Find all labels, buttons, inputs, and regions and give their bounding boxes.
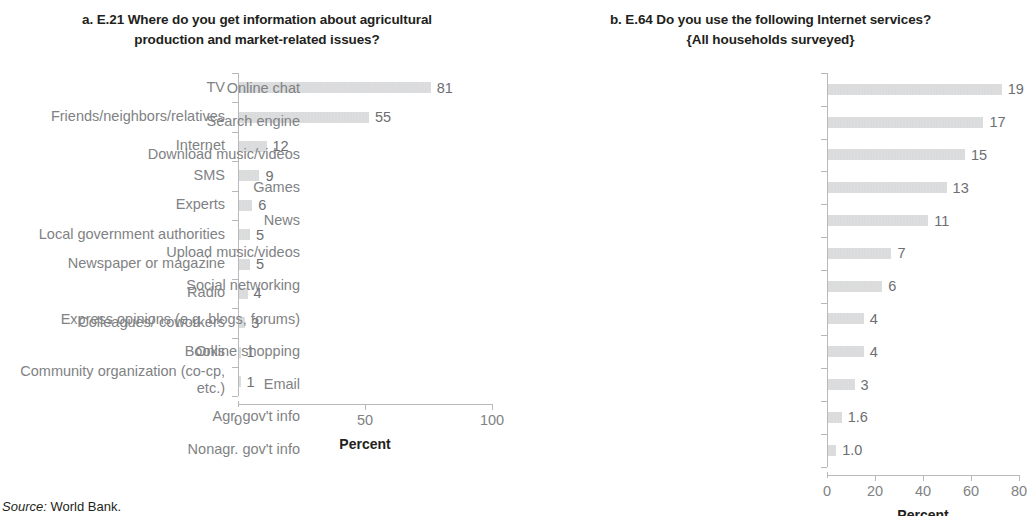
category-label: Social networking	[0, 278, 308, 294]
bar-value-label: 6	[882, 278, 896, 294]
chart-a-title-line1: a. E.21 Where do you get information abo…	[82, 12, 432, 27]
y-axis-tick	[821, 171, 827, 172]
source-label: Source:	[2, 499, 47, 514]
category-label: News	[0, 213, 308, 229]
y-axis-tick	[821, 237, 827, 238]
category-label: Online chat	[0, 82, 308, 98]
chart-bar-row: Online shopping4	[0, 335, 513, 368]
category-label: Online shopping	[0, 344, 308, 360]
x-axis-tick-label: 60	[963, 483, 979, 499]
chart-panel-b: b. E.64 Do you use the following Interne…	[514, 0, 1027, 516]
category-label: Nonagr. gov't info	[0, 442, 308, 458]
chart-bar-row: Games13	[0, 171, 513, 204]
category-label: Games	[0, 180, 308, 196]
bar-value-label: 13	[947, 180, 969, 196]
bar	[827, 248, 891, 259]
chart-bar-row: Online chat19	[0, 73, 513, 106]
x-axis-tick-label: 80	[1011, 483, 1027, 499]
bar-value-label: 4	[864, 311, 878, 327]
bar	[827, 117, 983, 128]
category-label: Email	[0, 377, 308, 393]
x-axis-title: Percent	[897, 507, 948, 516]
chart-bar-row: Upload music/videos7	[0, 237, 513, 270]
bar-value-label: 1.6	[842, 409, 868, 425]
chart-bar-row: Download music/videos15	[0, 139, 513, 172]
y-axis-tick	[821, 434, 827, 435]
bar-value-label: 19	[1002, 81, 1024, 97]
x-axis-tick	[1019, 475, 1020, 481]
bar	[827, 84, 1002, 95]
x-axis-tick	[971, 475, 972, 481]
category-label: Search engine	[0, 114, 308, 130]
category-label: Agr. gov't info	[0, 410, 308, 426]
chart-bar-row: Social networking6	[0, 270, 513, 303]
y-axis-tick	[821, 335, 827, 336]
figure-container: a. E.21 Where do you get information abo…	[0, 0, 1027, 516]
chart-bar-row: News11	[0, 204, 513, 237]
y-axis-tick	[821, 106, 827, 107]
x-axis-tick-label: 0	[823, 483, 831, 499]
category-label: Download music/videos	[0, 147, 308, 163]
bar	[827, 281, 882, 292]
x-axis-tick	[923, 475, 924, 481]
x-axis-tick	[875, 475, 876, 481]
y-axis-tick	[821, 303, 827, 304]
bar	[827, 182, 947, 193]
chart-a-title: a. E.21 Where do you get information abo…	[0, 10, 514, 49]
y-axis-line	[827, 73, 828, 467]
source-text: World Bank.	[50, 499, 121, 514]
chart-b-title: b. E.64 Do you use the following Interne…	[514, 10, 1027, 49]
bar	[827, 445, 836, 456]
bar	[827, 412, 842, 423]
y-axis-tick	[821, 204, 827, 205]
chart-bar-row: Express opinions (e.g. blogs, forums)4	[0, 303, 513, 336]
bar-value-label: 3	[855, 377, 869, 393]
bar-value-label: 4	[864, 344, 878, 360]
bar-value-label: 7	[891, 245, 905, 261]
chart-bar-row: Search engine17	[0, 106, 513, 139]
chart-bar-row: Email3	[0, 368, 513, 401]
y-axis-tick	[821, 467, 827, 468]
bar	[827, 379, 855, 390]
chart-b-plot-area: Online chat19Search engine17Download mus…	[0, 73, 513, 473]
bar-value-label: 1.0	[836, 442, 862, 458]
bar	[827, 215, 928, 226]
y-axis-tick	[821, 139, 827, 140]
chart-bar-row: Nonagr. gov't info1.0	[0, 434, 513, 467]
chart-bar-row: Agr. gov't info1.6	[0, 401, 513, 434]
y-axis-tick	[821, 401, 827, 402]
y-axis-tick	[821, 368, 827, 369]
x-axis-tick-label: 20	[867, 483, 883, 499]
x-axis-tick	[827, 472, 828, 478]
y-axis-tick	[821, 270, 827, 271]
source-note: Source: World Bank.	[2, 499, 121, 514]
bar-value-label: 11	[928, 213, 949, 229]
category-label: Upload music/videos	[0, 246, 308, 262]
bar	[827, 346, 864, 357]
y-axis-tick	[821, 73, 827, 74]
bar	[827, 313, 864, 324]
x-axis-tick-label: 40	[915, 483, 931, 499]
chart-a-title-line2: production and market-related issues?	[134, 32, 379, 47]
bar-value-label: 17	[983, 114, 1005, 130]
bar-value-label: 15	[965, 147, 987, 163]
chart-b-title-line1: b. E.64 Do you use the following Interne…	[610, 12, 931, 27]
category-label: Express opinions (e.g. blogs, forums)	[0, 311, 308, 327]
chart-b-title-line2: {All households surveyed}	[687, 32, 855, 47]
bar	[827, 149, 965, 160]
